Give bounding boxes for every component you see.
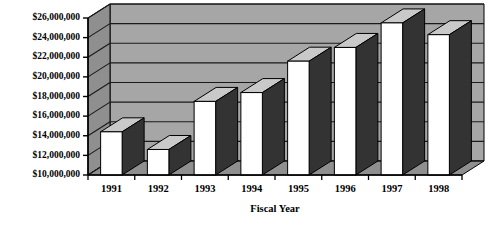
y-tick-label: $18,000,000	[33, 91, 81, 101]
bar-1994	[241, 79, 285, 175]
bar-1998	[428, 21, 472, 175]
y-tick-label: $24,000,000	[33, 32, 81, 42]
y-axis-tick-labels: $10,000,000$12,000,000$14,000,000$16,000…	[33, 12, 81, 179]
y-tick-label: $14,000,000	[33, 130, 81, 140]
x-axis-title: Fiscal Year	[250, 203, 300, 214]
y-tick-label: $26,000,000	[33, 12, 81, 22]
x-tick-label-1992: 1992	[148, 183, 169, 194]
bar-1996	[334, 33, 378, 175]
bar-1997	[381, 9, 425, 175]
bar-1993	[194, 87, 238, 175]
chart-canvas: $10,000,000$12,000,000$14,000,000$16,000…	[0, 0, 499, 229]
x-tick-label-1994: 1994	[241, 183, 263, 194]
bar-chart: $10,000,000$12,000,000$14,000,000$16,000…	[0, 0, 499, 229]
x-tick-label-1997: 1997	[381, 183, 402, 194]
x-tick-label-1996: 1996	[335, 183, 356, 194]
bar-1995	[288, 47, 332, 175]
y-tick-label: $22,000,000	[33, 51, 81, 61]
x-tick-label-1995: 1995	[288, 183, 309, 194]
y-tick-label: $20,000,000	[33, 71, 81, 81]
x-tick-label-1993: 1993	[194, 183, 215, 194]
y-tick-label: $10,000,000	[33, 169, 81, 179]
y-tick-label: $12,000,000	[33, 150, 81, 160]
x-tick-label-1998: 1998	[428, 183, 449, 194]
x-tick-label-1991: 1991	[101, 183, 122, 194]
y-tick-label: $16,000,000	[33, 110, 81, 120]
